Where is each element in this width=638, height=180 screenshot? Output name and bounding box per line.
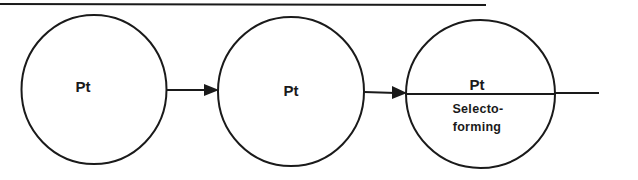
reactor-3-sublabel-line1: Selecto- (452, 102, 503, 116)
reactor-2-label: Pt (284, 82, 299, 99)
reactor-2: Pt (218, 17, 364, 166)
reactor-3-sublabel-line2: forming (453, 120, 502, 134)
reactor-1-circle (22, 15, 167, 164)
connection-line (364, 92, 396, 93)
reactor-1: Pt (22, 15, 167, 164)
arrowhead-icon (204, 84, 219, 96)
reactor-3-label: Pt (470, 76, 485, 93)
reactor-flow-diagram: Pt Pt Pt Selecto- forming (0, 0, 638, 180)
connection-2-3 (364, 86, 407, 99)
reactor-3: Pt Selecto- forming (406, 20, 555, 168)
top-rule-line (0, 4, 486, 5)
reactor-1-label: Pt (76, 78, 91, 95)
arrowhead-icon (392, 86, 407, 99)
connection-1-2 (166, 84, 219, 96)
